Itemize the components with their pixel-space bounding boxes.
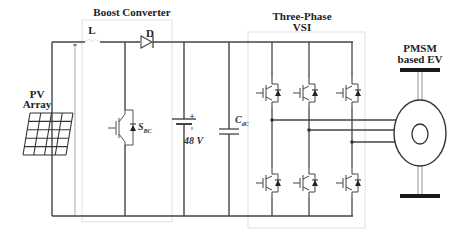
- vsi-lower-switch-1: [256, 168, 281, 198]
- pv-label-line2: Array: [20, 98, 54, 110]
- battery-plus-label: +: [187, 110, 197, 122]
- vsi-leg-3: [336, 42, 361, 216]
- phase-outputs: [270, 118, 397, 144]
- pmsm-motor: [394, 68, 446, 198]
- inductor-label: L: [86, 24, 98, 36]
- shaft-bar-top: [400, 68, 440, 72]
- vsi-lower-switch-2: [293, 168, 318, 198]
- vsi-lower-switch-3: [336, 168, 361, 198]
- pv-wires: [52, 42, 85, 216]
- boost-converter-title: Boost Converter: [82, 6, 182, 18]
- motor-title-line2: based EV: [385, 53, 455, 65]
- inductor-l: [85, 40, 140, 43]
- diode-label: D: [143, 27, 157, 39]
- switch-label: SBC: [138, 121, 162, 137]
- pv-panel-icon: [23, 113, 73, 155]
- vsi-upper-switch-2: [293, 78, 318, 108]
- pv-grid-line: [34, 113, 41, 155]
- pv-grid-line: [23, 113, 30, 155]
- battery-voltage-label: 48 V: [184, 135, 214, 147]
- vsi-upper-switch-1: [256, 78, 281, 108]
- capacitor-label: CdC: [235, 114, 259, 130]
- boost-switch-sbc: [108, 42, 136, 216]
- pv-grid-line: [66, 113, 73, 155]
- pv-grid-line: [45, 113, 52, 155]
- vsi-title-line2: VSI: [262, 21, 342, 33]
- battery-48v: [172, 42, 196, 216]
- vsi-leg-1: [256, 42, 281, 216]
- vsi-upper-switch-3: [336, 78, 361, 108]
- shaft-bar-bottom: [400, 194, 440, 198]
- vsi-leg-2: [293, 42, 318, 216]
- diode-d: [141, 36, 353, 48]
- pv-grid-line: [55, 113, 62, 155]
